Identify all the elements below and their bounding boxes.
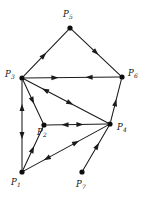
node-label-p4: P4 — [117, 123, 127, 132]
node-label-base-p3: P — [5, 69, 11, 79]
arrowhead-p1-to-p4 — [72, 141, 80, 147]
node-label-p2: P2 — [37, 128, 47, 137]
arrowhead-p1-to-p2 — [29, 146, 34, 154]
node-label-subscript-p6: 6 — [134, 72, 138, 79]
node-label-subscript-p5: 5 — [69, 13, 73, 20]
node-p6 — [119, 74, 124, 79]
arrowhead-p3-to-p6 — [51, 75, 58, 80]
node-label-subscript-p7: 7 — [82, 183, 86, 190]
node-label-base-p2: P — [37, 127, 43, 137]
arrowhead-p2-to-p4 — [76, 122, 83, 127]
node-label-subscript-p2: 2 — [43, 131, 47, 138]
arrowhead-p4-to-p3 — [42, 88, 50, 94]
node-p7 — [79, 169, 84, 174]
edges-layer — [22, 30, 121, 171]
node-label-subscript-p3: 3 — [11, 73, 15, 80]
edge-p3-p4 — [24, 79, 107, 122]
nodes-layer — [19, 25, 124, 174]
node-label-base-p1: P — [11, 177, 17, 187]
node-label-p6: P6 — [128, 69, 138, 78]
arrowhead-p1-to-p3 — [20, 104, 25, 111]
arrowhead-p4-to-p1 — [44, 155, 52, 161]
node-p5 — [67, 25, 72, 30]
node-label-base-p5: P — [63, 9, 69, 19]
node-p1 — [19, 169, 24, 174]
node-label-p1: P1 — [11, 178, 21, 187]
arrowhead-p7-to-p4 — [93, 143, 99, 150]
node-label-p5: P5 — [63, 10, 73, 19]
arrowhead-p3-to-p1 — [20, 132, 25, 139]
node-label-subscript-p4: 4 — [123, 126, 127, 133]
node-p3 — [19, 75, 24, 80]
arrowhead-p4-to-p6 — [112, 99, 117, 107]
node-label-p7: P7 — [76, 180, 86, 189]
arrowhead-p4-to-p2 — [61, 122, 68, 127]
node-label-subscript-p1: 1 — [17, 181, 21, 188]
node-label-p3: P3 — [5, 70, 15, 79]
node-label-base-p6: P — [128, 68, 134, 78]
graph-canvas — [0, 0, 145, 201]
arrowhead-p6-to-p3 — [85, 75, 92, 80]
arrowhead-p3-to-p4 — [66, 99, 74, 105]
node-label-base-p4: P — [117, 122, 123, 132]
node-label-base-p7: P — [76, 179, 82, 189]
node-p4 — [107, 121, 112, 126]
arrowhead-p3-to-p2 — [29, 96, 34, 104]
edge-p3-p6 — [25, 77, 119, 78]
directed-graph-figure: P1P2P3P4P5P6P7 — [0, 0, 145, 201]
